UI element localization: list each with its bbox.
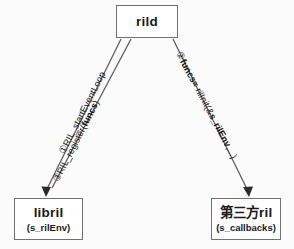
node-libril-subtitle: (s_rilEnv) xyxy=(27,222,70,233)
edge-label-start-event-loop: ①RIL_startEventLoop xyxy=(57,70,108,156)
edge-arrowhead-thirdparty xyxy=(243,187,253,198)
node-thirdparty-ril-title: 第三方ril xyxy=(220,205,273,221)
node-thirdparty-ril-subtitle: (s_callbacks) xyxy=(216,222,276,233)
node-libril[interactable]: libril (s_rilEnv) xyxy=(14,198,83,240)
node-thirdparty-ril[interactable]: 第三方ril (s_callbacks) xyxy=(211,198,281,240)
node-rild-title: rild xyxy=(136,14,158,30)
edge-arrowhead-libril-outer xyxy=(42,187,52,198)
diagram-canvas: rild libril (s_rilEnv) 第三方ril (s_callbac… xyxy=(0,0,294,249)
edge-text-2-tail: ,...) xyxy=(224,144,239,161)
edge-text-2: rilInit(& xyxy=(192,84,216,117)
edge-text-2-bold: s_rilEnv xyxy=(207,112,233,149)
node-rild[interactable]: rild xyxy=(116,5,178,38)
edge-text-2-lead: funcs= xyxy=(178,57,201,88)
node-libril-title: libril xyxy=(34,205,64,221)
edge-label-ril-init: ②funcs= rilInit(&s_rilEnv,...) xyxy=(173,50,239,161)
